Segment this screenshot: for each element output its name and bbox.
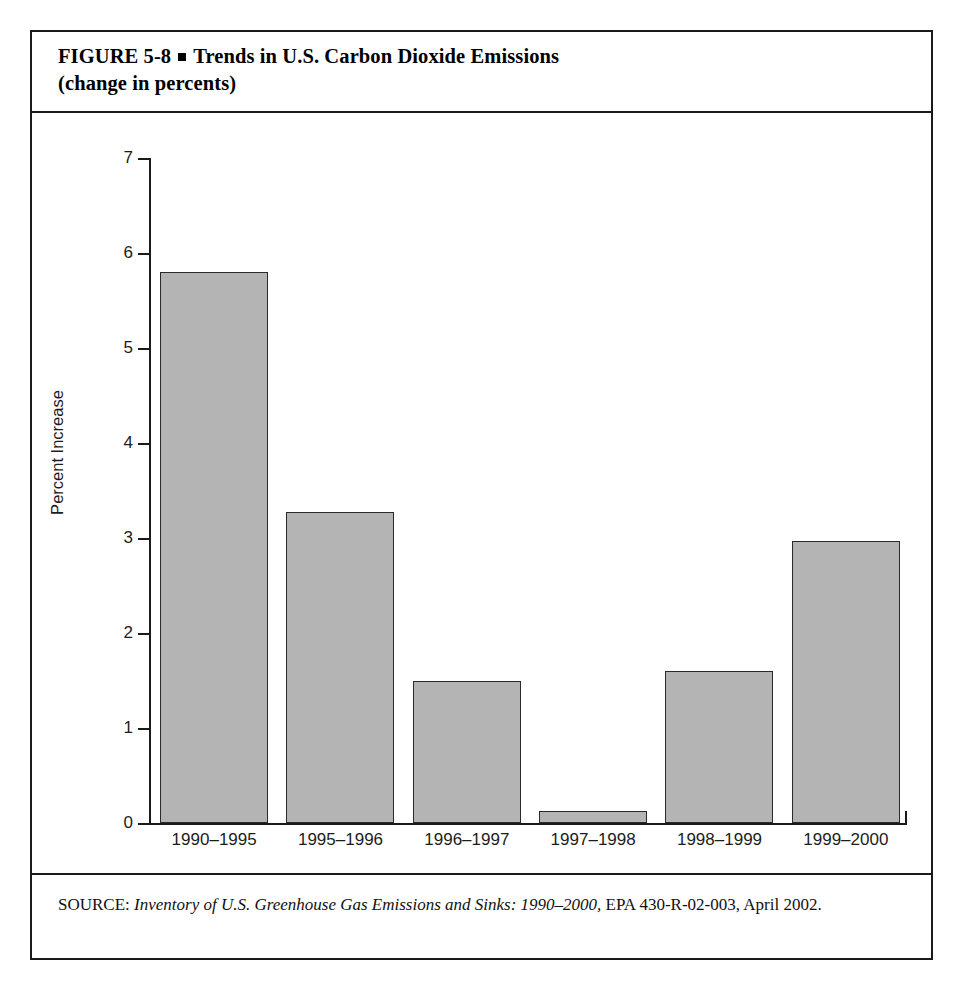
y-tick-5 — [138, 348, 150, 350]
figure-number: FIGURE 5-8 — [58, 45, 171, 67]
y-tick-3 — [138, 538, 150, 540]
x-axis-tick-labels: 1990–19951995–19961996–19971997–19981998… — [151, 830, 909, 860]
x-axis-label-1999–2000: 1999–2000 — [803, 830, 888, 850]
source-note: SOURCE: Inventory of U.S. Greenhouse Gas… — [58, 892, 895, 918]
bar-1998–1999 — [665, 671, 773, 823]
y-tick-label-7: 7 — [124, 148, 133, 168]
bar-1990–1995 — [160, 272, 268, 823]
source-prefix: SOURCE: — [58, 895, 130, 914]
bar-1997–1998 — [539, 811, 647, 823]
y-tick-label-4: 4 — [124, 433, 133, 453]
y-tick-label-6: 6 — [124, 243, 133, 263]
figure-title-block: FIGURE 5-8Trends in U.S. Carbon Dioxide … — [32, 32, 931, 113]
x-axis-label-1997–1998: 1997–1998 — [551, 830, 636, 850]
figure-container: FIGURE 5-8Trends in U.S. Carbon Dioxide … — [30, 30, 933, 960]
y-axis-title: Percent Increase — [48, 363, 67, 543]
square-bullet-icon — [178, 53, 186, 61]
x-axis-line — [149, 823, 907, 825]
y-tick-label-3: 3 — [124, 528, 133, 548]
source-title-italic: Inventory of U.S. Greenhouse Gas Emissio… — [134, 895, 601, 914]
y-tick-label-1: 1 — [124, 718, 133, 738]
source-rest: EPA 430-R-02-003, April 2002. — [601, 895, 821, 914]
y-tick-1 — [138, 728, 150, 730]
bar-1999–2000 — [792, 541, 900, 823]
x-axis-label-1990–1995: 1990–1995 — [172, 830, 257, 850]
y-tick-7 — [138, 158, 150, 160]
y-tick-label-0: 0 — [124, 813, 133, 833]
y-tick-4 — [138, 443, 150, 445]
y-tick-0 — [138, 823, 150, 825]
y-tick-label-5: 5 — [124, 338, 133, 358]
y-tick-label-2: 2 — [124, 623, 133, 643]
bar-series — [151, 158, 907, 823]
chart-axes: 01234567 — [149, 158, 907, 825]
bar-1996–1997 — [413, 681, 521, 824]
x-axis-label-1998–1999: 1998–1999 — [677, 830, 762, 850]
figure-source-block: SOURCE: Inventory of U.S. Greenhouse Gas… — [32, 873, 931, 958]
bar-1995–1996 — [286, 512, 394, 823]
chart-plot-area: Percent Increase 01234567 1990–19951995–… — [32, 113, 931, 873]
y-tick-2 — [138, 633, 150, 635]
figure-title-line-1: FIGURE 5-8Trends in U.S. Carbon Dioxide … — [58, 43, 907, 70]
figure-title-line-2: (change in percents) — [58, 70, 907, 97]
figure-title-text: Trends in U.S. Carbon Dioxide Emissions — [193, 45, 559, 67]
y-tick-6 — [138, 253, 150, 255]
x-axis-label-1996–1997: 1996–1997 — [424, 830, 509, 850]
x-axis-label-1995–1996: 1995–1996 — [298, 830, 383, 850]
